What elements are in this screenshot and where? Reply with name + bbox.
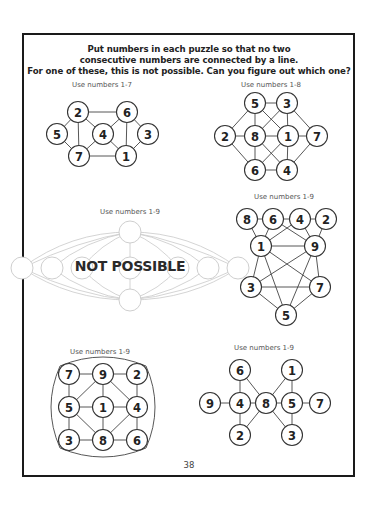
puzzle-4-graph: 864219375 xyxy=(237,209,337,326)
graph-node: 1 xyxy=(251,236,272,257)
graph-node: 9 xyxy=(200,393,221,414)
graph-node: 5 xyxy=(47,124,68,145)
graph-node: 8 xyxy=(245,126,266,147)
node-number: 6 xyxy=(269,213,277,227)
node-number: 5 xyxy=(282,309,290,323)
graph-node: 3 xyxy=(59,430,80,451)
graph-node: 5 xyxy=(282,393,303,414)
node-number: 2 xyxy=(133,368,141,382)
node-number: 8 xyxy=(251,130,259,144)
graph-node: 6 xyxy=(117,102,138,123)
node-number: 4 xyxy=(133,401,141,415)
node-number: 6 xyxy=(251,164,259,178)
graph-node: 2 xyxy=(316,209,337,230)
node-number: 3 xyxy=(288,429,296,443)
puzzle-2-graph: 53281764 xyxy=(215,93,328,181)
not-possible-label: NOT POSSIBLE xyxy=(60,258,200,274)
graph-node: 8 xyxy=(256,393,277,414)
graph-node: 5 xyxy=(276,305,297,326)
graph-node: 3 xyxy=(277,93,298,114)
graph-node: 1 xyxy=(93,397,114,418)
node-number: 5 xyxy=(65,401,73,415)
graph-node: 1 xyxy=(278,126,299,147)
graph-node: 7 xyxy=(310,277,331,298)
node-number: 5 xyxy=(251,97,259,111)
node-number: 3 xyxy=(283,97,291,111)
node-number: 6 xyxy=(123,106,131,120)
graph-node: 4 xyxy=(127,397,148,418)
node-number: 8 xyxy=(262,397,270,411)
node-number: 9 xyxy=(206,397,214,411)
node-number: 5 xyxy=(288,397,296,411)
node-number: 1 xyxy=(122,150,130,164)
node-number: 3 xyxy=(144,128,152,142)
graph-node: 2 xyxy=(230,425,251,446)
puzzle-board: 2654371532817648642193757925143866194857… xyxy=(0,0,378,505)
node-number: 4 xyxy=(296,213,304,227)
graph-node: 9 xyxy=(305,236,326,257)
node-number: 9 xyxy=(311,240,319,254)
graph-node: 1 xyxy=(282,360,303,381)
node-number: 2 xyxy=(322,213,330,227)
node-number: 1 xyxy=(99,401,107,415)
graph-node: 6 xyxy=(127,430,148,451)
node-number: 7 xyxy=(75,150,83,164)
graph-node: 2 xyxy=(215,126,236,147)
graph-node: 8 xyxy=(237,209,258,230)
node-number: 4 xyxy=(236,397,244,411)
node-number: 9 xyxy=(99,368,107,382)
node-number: 2 xyxy=(74,106,82,120)
node-number: 4 xyxy=(283,164,291,178)
node-number: 8 xyxy=(243,213,251,227)
graph-node: 3 xyxy=(241,277,262,298)
node-number: 7 xyxy=(316,281,324,295)
graph-node: 5 xyxy=(245,93,266,114)
graph-node: 6 xyxy=(230,360,251,381)
graph-node: 4 xyxy=(230,393,251,414)
node-number: 2 xyxy=(236,429,244,443)
node-number: 3 xyxy=(65,434,73,448)
puzzle-5-graph: 792514386 xyxy=(59,364,148,451)
node-number: 8 xyxy=(99,434,107,448)
graph-node: 2 xyxy=(68,102,89,123)
node-number: 7 xyxy=(313,130,321,144)
graph-node: 2 xyxy=(127,364,148,385)
node-number: 3 xyxy=(247,281,255,295)
graph-node: 7 xyxy=(59,364,80,385)
node-number: 1 xyxy=(288,364,296,378)
graph-node: 7 xyxy=(310,393,331,414)
graph-node: 3 xyxy=(282,425,303,446)
graph-node: 7 xyxy=(69,146,90,167)
graph-node: 1 xyxy=(116,146,137,167)
node-number: 7 xyxy=(316,397,324,411)
graph-node: 6 xyxy=(263,209,284,230)
node-number: 7 xyxy=(65,368,73,382)
graph-node: 6 xyxy=(245,160,266,181)
page-number: 38 xyxy=(22,460,356,470)
graph-node: 4 xyxy=(93,124,114,145)
graph-node: 5 xyxy=(59,397,80,418)
graph-node: 4 xyxy=(277,160,298,181)
node-number: 1 xyxy=(257,240,265,254)
node-number: 1 xyxy=(284,130,292,144)
graph-node: 4 xyxy=(290,209,311,230)
node-number: 2 xyxy=(221,130,229,144)
node-number: 6 xyxy=(133,434,141,448)
puzzle-6-graph: 619485723 xyxy=(200,360,331,446)
graph-node: 8 xyxy=(93,430,114,451)
node-number: 4 xyxy=(99,128,107,142)
node-number: 5 xyxy=(53,128,61,142)
node-number: 6 xyxy=(236,364,244,378)
graph-node: 9 xyxy=(93,364,114,385)
graph-node: 3 xyxy=(138,124,159,145)
graph-node: 7 xyxy=(307,126,328,147)
puzzle-1-graph: 2654371 xyxy=(47,102,159,167)
